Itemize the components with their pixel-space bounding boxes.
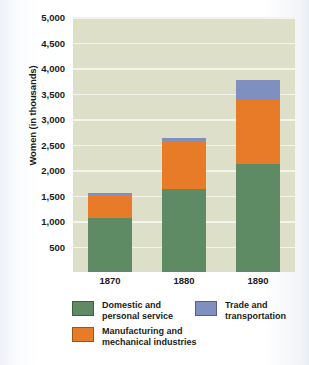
x-axis-tick-label: 1890 [228,275,288,286]
chart-legend: Domestic and personal serviceManufacturi… [72,300,304,356]
bar-segment-1870-series-2[interactable] [88,193,132,195]
legend-item[interactable]: Trade and transportation [195,300,286,321]
bar-1870[interactable] [88,193,132,272]
y-axis-tick-label: 500 [49,241,65,252]
legend-swatch [195,301,217,316]
x-axis-tick-label: 1870 [80,275,140,286]
bar-segment-1890-series-1[interactable] [236,100,280,164]
bar-1890[interactable] [236,80,280,272]
bar-1880[interactable] [162,138,206,272]
y-axis-tick-label: 5,000 [41,12,65,23]
bar-segment-1890-series-2[interactable] [236,80,280,99]
bar-segment-1870-series-0[interactable] [88,218,132,272]
bar-segment-1890-series-0[interactable] [236,164,280,272]
y-axis-tick-label: 2,500 [41,139,65,150]
plot-area [73,17,295,272]
bar-segment-1880-series-1[interactable] [162,141,206,189]
bar-segment-1880-series-2[interactable] [162,138,206,141]
y-axis-tick-label: 1,500 [41,190,65,201]
x-axis-tick-labels: 187018801890 [73,275,295,291]
legend-label: Domestic and personal service [102,300,173,321]
y-axis-tick-label: 4,000 [41,63,65,74]
bar-segment-1880-series-0[interactable] [162,189,206,272]
legend-item[interactable]: Domestic and personal service [72,300,173,321]
y-axis-tick-label: 4,500 [41,37,65,48]
y-axis-tick-label: 3,000 [41,114,65,125]
x-axis-tick-label: 1880 [154,275,214,286]
y-axis-tick-label: 1,000 [41,216,65,227]
legend-swatch [72,301,94,316]
bar-group [73,17,295,272]
legend-swatch [72,327,94,342]
y-axis-tick-label: 3,500 [41,88,65,99]
legend-label: Trade and transportation [225,300,286,321]
stacked-bar-chart: Women (in thousands) 5,0004,5004,0003,50… [0,0,309,365]
y-axis-tick-label: 2,000 [41,165,65,176]
legend-item[interactable]: Manufacturing and mechanical industries [72,326,197,347]
bar-segment-1870-series-1[interactable] [88,195,132,218]
y-axis-tick-labels: 5,0004,5004,0003,5003,0002,5002,0001,500… [0,17,69,272]
legend-label: Manufacturing and mechanical industries [102,326,197,347]
